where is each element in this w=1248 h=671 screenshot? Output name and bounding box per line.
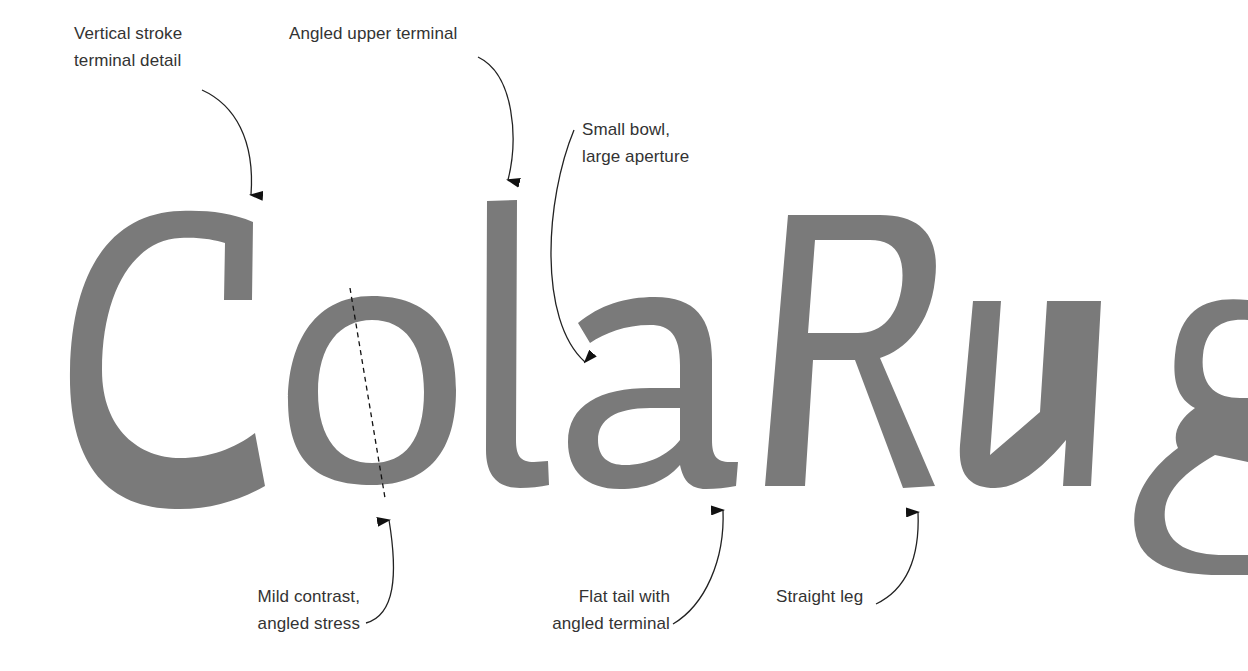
arrow-straight-leg (876, 512, 918, 604)
label-angled-upper: Angled upper terminal (289, 20, 457, 47)
type-specimen-diagram: Vertical stroke terminal detail Angled u… (0, 0, 1248, 671)
glyph-o (288, 296, 456, 485)
specimen-glyphs (0, 0, 1248, 671)
arrow-vertical-stroke (202, 90, 252, 195)
glyph-r-italic (765, 215, 936, 488)
label-small-bowl: Small bowl, large aperture (582, 116, 689, 170)
label-flat-tail: Flat tail with angled terminal (530, 583, 670, 637)
label-small-bowl-line2: large aperture (582, 143, 689, 170)
label-mild-contrast: Mild contrast, angled stress (230, 583, 360, 637)
label-angled-upper-line1: Angled upper terminal (289, 20, 457, 47)
label-vertical-stroke-line1: Vertical stroke (74, 20, 182, 47)
glyph-g-italic (1134, 299, 1248, 575)
label-mild-contrast-line1: Mild contrast, (230, 583, 360, 610)
label-small-bowl-line1: Small bowl, (582, 116, 689, 143)
label-flat-tail-line1: Flat tail with (530, 583, 670, 610)
arrow-angled-upper (478, 57, 513, 180)
label-straight-leg: Straight leg (776, 583, 863, 610)
label-straight-leg-line1: Straight leg (776, 583, 863, 610)
glyph-group (70, 200, 1248, 575)
arrow-flat-tail (673, 510, 723, 624)
label-flat-tail-line2: angled terminal (530, 610, 670, 637)
label-mild-contrast-line2: angled stress (230, 610, 360, 637)
glyph-c (70, 211, 265, 509)
glyph-a (568, 297, 738, 489)
arrow-mild-contrast (366, 520, 393, 623)
glyph-u-italic (960, 301, 1101, 488)
label-vertical-stroke-line2: terminal detail (74, 47, 182, 74)
glyph-l (486, 200, 549, 488)
label-vertical-stroke: Vertical stroke terminal detail (74, 20, 182, 74)
arrow-small-bowl (551, 130, 585, 362)
